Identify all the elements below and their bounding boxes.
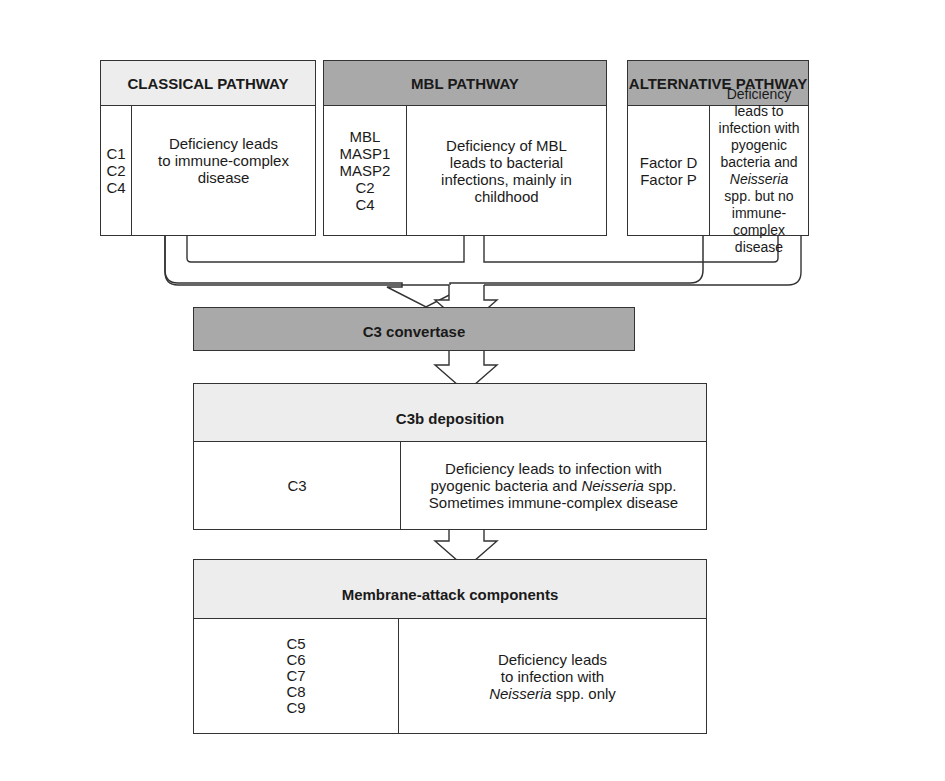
classical-pathway-title: CLASSICAL PATHWAY	[101, 61, 315, 106]
classical-description: Deficiency leads to immune-complex disea…	[132, 106, 315, 235]
mac-description: Deficiency leads to infection with Neiss…	[399, 619, 706, 733]
c3b-deposition-box: C3b deposition C3 Deficiency leads to in…	[193, 383, 707, 530]
mac-components: C5 C6 C7 C8 C9	[194, 619, 399, 733]
alternative-description: Deficiency leads to infection with pyoge…	[710, 106, 808, 235]
c3-convertase-box: C3 convertase	[193, 307, 635, 351]
mbl-pathway-title: MBL PATHWAY	[324, 61, 606, 106]
alternative-components: Factor D Factor P	[628, 106, 710, 235]
mbl-components: MBL MASP1 MASP2 C2 C4	[324, 106, 407, 235]
membrane-attack-box: Membrane-attack components C5 C6 C7 C8 C…	[193, 559, 707, 734]
classical-pathway-box: CLASSICAL PATHWAY C1 C2 C4 Deficiency le…	[100, 60, 316, 236]
alternative-pathway-box: ALTERNATIVE PATHWAY Factor D Factor P De…	[627, 60, 809, 236]
c3-convertase-title: C3 convertase	[194, 308, 634, 350]
mbl-pathway-box: MBL PATHWAY MBL MASP1 MASP2 C2 C4 Defici…	[323, 60, 607, 236]
c3b-deposition-title: C3b deposition	[194, 384, 706, 442]
c3b-components: C3	[194, 442, 401, 529]
classical-components: C1 C2 C4	[101, 106, 132, 235]
membrane-attack-title: Membrane-attack components	[194, 560, 706, 619]
neisseria-italic: Neisseria	[730, 171, 788, 187]
mbl-description: Deficiency of MBL leads to bacterial inf…	[407, 106, 606, 235]
c3b-description: Deficiency leads to infection with pyoge…	[401, 442, 706, 529]
